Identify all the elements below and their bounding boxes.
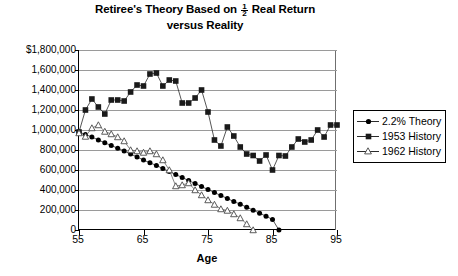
data-point-square — [96, 104, 102, 110]
data-point-triangle — [127, 147, 133, 153]
data-point-triangle — [231, 211, 237, 217]
data-point-square — [167, 77, 173, 83]
data-point-square — [186, 100, 192, 106]
data-point-square — [154, 70, 160, 76]
data-point-square — [270, 167, 276, 173]
data-point-circle — [225, 196, 230, 201]
data-point-triangle — [153, 151, 159, 157]
data-point-square — [160, 83, 166, 89]
data-point-circle — [180, 175, 185, 180]
x-axis-tick-label: 75 — [187, 234, 227, 245]
legend-label-1953: 1953 History — [382, 131, 441, 142]
x-axis-title: Age — [78, 252, 336, 264]
data-point-square — [334, 122, 340, 128]
data-point-circle — [251, 208, 256, 213]
data-point-square — [212, 137, 218, 143]
chart-title-line1-pre: Retiree's Theory Based on — [95, 3, 237, 15]
chart-legend: 2.2% Theory 1953 History 1962 History — [353, 110, 446, 163]
data-point-circle — [154, 163, 159, 168]
data-point-square — [205, 109, 211, 115]
data-point-circle — [264, 214, 269, 219]
chart-container: Retiree's Theory Based on 1 2 Real Retur… — [0, 0, 458, 276]
data-point-circle — [231, 199, 236, 204]
data-point-square — [108, 97, 114, 103]
data-point-square — [141, 83, 147, 89]
data-point-square — [173, 78, 179, 84]
data-point-square — [134, 82, 140, 88]
data-point-triangle — [179, 182, 185, 188]
data-point-square — [89, 96, 95, 102]
x-axis-tick-label: 55 — [58, 234, 98, 245]
data-point-triangle — [205, 197, 211, 203]
data-point-square — [308, 137, 314, 143]
data-point-square — [257, 158, 263, 164]
data-point-circle — [102, 140, 107, 145]
data-point-circle — [160, 166, 165, 171]
data-point-square — [225, 124, 231, 130]
data-point-triangle — [237, 215, 243, 221]
data-point-circle — [96, 138, 101, 143]
data-point-square — [121, 98, 127, 104]
open-triangle-marker-icon — [357, 146, 379, 157]
filled-circle-marker-icon — [357, 116, 379, 127]
data-point-circle — [206, 187, 211, 192]
series-1 — [77, 130, 282, 233]
series-3 — [76, 122, 257, 233]
data-point-square — [263, 152, 269, 158]
fraction-denominator: 2 — [241, 11, 247, 18]
data-point-square — [128, 89, 134, 95]
data-point-square — [231, 133, 237, 139]
data-point-triangle — [218, 206, 224, 212]
data-point-triangle — [95, 122, 101, 128]
data-point-square — [115, 97, 121, 103]
data-point-circle — [115, 146, 120, 151]
chart-title-line1-post: Real Return — [252, 3, 315, 15]
series-2 — [76, 70, 340, 173]
data-point-square — [250, 153, 256, 159]
chart-title: Retiree's Theory Based on 1 2 Real Retur… — [40, 2, 370, 32]
data-point-triangle — [115, 134, 121, 140]
data-point-triangle — [211, 201, 217, 207]
data-point-circle — [199, 184, 204, 189]
y-axis-tick-label: 1,600,000 — [0, 65, 76, 75]
data-point-square — [321, 134, 327, 140]
data-point-circle — [141, 158, 146, 163]
data-point-triangle — [147, 148, 153, 154]
data-point-circle — [212, 190, 217, 195]
data-point-circle — [238, 202, 243, 207]
series-line — [79, 73, 337, 170]
legend-label-1962: 1962 History — [382, 146, 441, 157]
data-point-square — [83, 107, 89, 113]
data-point-triangle — [108, 131, 114, 137]
data-series-layer — [79, 50, 337, 230]
data-point-triangle — [166, 167, 172, 173]
data-point-square — [289, 144, 295, 150]
data-point-square — [147, 71, 153, 77]
data-point-square — [328, 122, 334, 128]
y-axis-tick-label: 1,200,000 — [0, 105, 76, 115]
data-point-square — [296, 136, 302, 142]
data-point-square — [244, 151, 250, 157]
data-point-circle — [173, 172, 178, 177]
series-line — [79, 132, 279, 230]
y-axis-tick-label: 200,000 — [0, 205, 76, 215]
data-point-circle — [147, 160, 152, 165]
legend-item-1962[interactable]: 1962 History — [357, 144, 441, 159]
data-point-circle — [257, 211, 262, 216]
legend-item-1953[interactable]: 1953 History — [357, 129, 441, 144]
y-axis-tick-label: 1,400,000 — [0, 85, 76, 95]
x-axis-tick-label: 85 — [252, 234, 292, 245]
data-point-square — [192, 95, 198, 101]
y-axis-tick-label: 1,000,000 — [0, 125, 76, 135]
data-point-circle — [109, 143, 114, 148]
data-point-circle — [218, 193, 223, 198]
y-axis-tick-label: $1,800,000 — [0, 45, 76, 55]
x-axis-tick-label: 95 — [316, 234, 356, 245]
legend-label-theory: 2.2% Theory — [382, 116, 441, 127]
data-point-circle — [193, 181, 198, 186]
legend-item-theory[interactable]: 2.2% Theory — [357, 114, 441, 129]
y-axis-tick-label: 800,000 — [0, 145, 76, 155]
data-point-circle — [89, 135, 94, 140]
data-point-circle — [276, 228, 281, 233]
data-point-triangle — [121, 138, 127, 144]
